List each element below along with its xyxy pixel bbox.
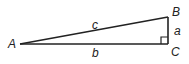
right-angle-marker [161, 37, 168, 44]
vertex-label-b: B [172, 5, 180, 19]
right-triangle-diagram: A B C a b c [0, 0, 189, 64]
side-label-c: c [92, 18, 98, 32]
side-label-b: b [92, 46, 99, 60]
side-label-a: a [174, 24, 181, 38]
vertex-label-a: A [7, 37, 16, 51]
vertex-label-c: C [171, 45, 180, 59]
